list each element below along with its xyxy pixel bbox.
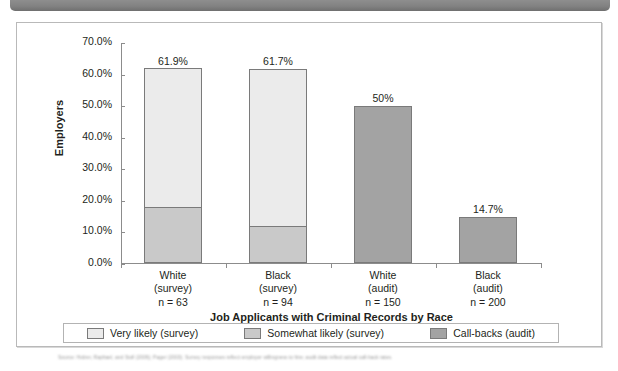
x-axis-tick-mark	[436, 263, 437, 268]
y-axis-tick-label: 10.0%	[82, 224, 112, 236]
bar-value-label: 14.7%	[459, 203, 517, 215]
category-sample-size: n = 63	[117, 296, 229, 309]
category-sample-size: n = 150	[327, 296, 439, 309]
bar-segment-somewhat-likely[interactable]	[144, 207, 202, 263]
stacked-bar[interactable]	[249, 69, 307, 263]
figure-caption: Source: Holzer, Raphael, and Stoll (2006…	[58, 354, 563, 361]
bar-segment-call-backs[interactable]	[354, 106, 412, 263]
bar-segment-call-backs[interactable]	[459, 217, 517, 263]
legend-swatch-icon	[430, 328, 447, 339]
x-axis-category-black-audit: Black (audit) n = 200	[432, 269, 544, 309]
legend-label: Call-backs (audit)	[453, 327, 535, 339]
stacked-bar[interactable]	[459, 217, 517, 263]
x-axis-tick-mark	[541, 263, 542, 268]
legend-label: Somewhat likely (survey)	[267, 327, 384, 339]
x-axis-tick-mark	[226, 263, 227, 268]
bar-segment-very-likely[interactable]	[249, 69, 307, 226]
stacked-bar[interactable]	[354, 106, 412, 263]
y-axis-tick-label: 40.0%	[82, 130, 112, 142]
legend-item-call-backs[interactable]: Call-backs (audit)	[430, 327, 535, 339]
x-axis-title: Job Applicants with Criminal Records by …	[121, 311, 542, 323]
category-race: White	[117, 269, 229, 282]
legend-item-very-likely[interactable]: Very likely (survey)	[87, 327, 198, 339]
legend-item-somewhat-likely[interactable]: Somewhat likely (survey)	[244, 327, 384, 339]
y-axis-tick-label: 0.0%	[88, 256, 112, 268]
legend-label: Very likely (survey)	[110, 327, 198, 339]
bar-value-label: 50%	[354, 92, 412, 104]
y-axis-tick-label: 30.0%	[82, 161, 112, 173]
legend-swatch-icon	[244, 328, 261, 339]
y-axis-tick-label: 50.0%	[82, 98, 112, 110]
x-axis-category-white-audit: White (audit) n = 150	[327, 269, 439, 309]
bar-value-label: 61.9%	[144, 55, 202, 67]
bar-segment-very-likely[interactable]	[144, 68, 202, 206]
page-header-strip	[10, 0, 610, 11]
category-method: (audit)	[432, 282, 544, 295]
category-race: Black	[432, 269, 544, 282]
category-sample-size: n = 200	[432, 296, 544, 309]
x-axis-category-white-survey: White (survey) n = 63	[117, 269, 229, 309]
category-race: White	[327, 269, 439, 282]
category-method: (survey)	[222, 282, 334, 295]
category-method: (survey)	[117, 282, 229, 295]
category-sample-size: n = 94	[222, 296, 334, 309]
x-axis-category-black-survey: Black (survey) n = 94	[222, 269, 334, 309]
chart-legend: Very likely (survey) Somewhat likely (su…	[63, 323, 559, 343]
category-method: (audit)	[327, 282, 439, 295]
plot-area: 61.9% 61.7% 50% 14.7%	[121, 43, 541, 263]
legend-swatch-icon	[87, 328, 104, 339]
stacked-bar[interactable]	[144, 68, 202, 263]
y-axis-tick-label: 70.0%	[82, 35, 112, 47]
chart-container: 70.0% 60.0% 50.0% 40.0% 30.0% 20.0% 10.0…	[16, 22, 602, 347]
x-axis-tick-mark	[331, 263, 332, 268]
x-axis-tick-mark	[121, 263, 122, 268]
category-race: Black	[222, 269, 334, 282]
bar-value-label: 61.7%	[249, 55, 307, 67]
bar-segment-somewhat-likely[interactable]	[249, 226, 307, 263]
y-axis-tick-label: 20.0%	[82, 193, 112, 205]
y-axis-title: Employers	[53, 100, 65, 156]
y-axis-tick-label: 60.0%	[82, 67, 112, 79]
